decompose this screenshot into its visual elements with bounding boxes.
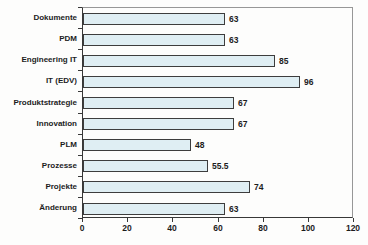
bar bbox=[83, 203, 225, 215]
bar bbox=[83, 97, 234, 109]
bar-chart-figure: DokumentePDMEngineering ITIT (EDV)Produk… bbox=[0, 0, 368, 245]
category-label: Produktstrategie bbox=[0, 98, 77, 107]
category-label: IT (EDV) bbox=[0, 76, 77, 85]
x-axis-tick bbox=[127, 218, 128, 222]
x-axis-tick-label: 100 bbox=[293, 223, 323, 233]
x-axis-tick-label: 20 bbox=[112, 223, 142, 233]
bar bbox=[83, 139, 191, 151]
bar bbox=[83, 181, 250, 193]
x-axis-tick-label: 80 bbox=[248, 223, 278, 233]
category-label: Innovation bbox=[0, 119, 77, 128]
category-axis-labels: DokumentePDMEngineering ITIT (EDV)Produk… bbox=[0, 7, 77, 218]
x-axis-tick-label: 0 bbox=[67, 223, 97, 233]
category-label: PLM bbox=[0, 140, 77, 149]
x-axis-tick bbox=[82, 218, 83, 222]
bar bbox=[83, 76, 300, 88]
value-label: 67 bbox=[238, 118, 247, 130]
x-axis-tick-label: 120 bbox=[338, 223, 368, 233]
bar bbox=[83, 118, 234, 130]
value-label: 63 bbox=[229, 13, 238, 25]
y-axis-tick bbox=[78, 155, 82, 156]
value-label: 63 bbox=[229, 203, 238, 215]
category-label: Prozesse bbox=[0, 161, 77, 170]
value-label: 85 bbox=[279, 55, 288, 67]
plot-area: 6363859667674855.57463 bbox=[82, 7, 353, 218]
y-axis-tick bbox=[78, 7, 82, 8]
y-axis-tick bbox=[78, 70, 82, 71]
x-axis-tick bbox=[172, 218, 173, 222]
x-axis-tick bbox=[353, 218, 354, 222]
value-label: 55.5 bbox=[212, 160, 229, 172]
y-axis-tick bbox=[78, 49, 82, 50]
x-axis-tick-label: 60 bbox=[203, 223, 233, 233]
y-axis-tick bbox=[78, 28, 82, 29]
y-axis-tick bbox=[78, 91, 82, 92]
value-label: 96 bbox=[304, 76, 313, 88]
x-axis-tick bbox=[308, 218, 309, 222]
value-label: 74 bbox=[254, 181, 263, 193]
category-label: Änderung bbox=[0, 203, 77, 212]
bar bbox=[83, 55, 275, 67]
category-label: Projekte bbox=[0, 182, 77, 191]
y-axis-tick bbox=[78, 176, 82, 177]
bar bbox=[83, 13, 225, 25]
value-label: 48 bbox=[195, 139, 204, 151]
bar bbox=[83, 34, 225, 46]
y-axis-tick bbox=[78, 113, 82, 114]
x-axis-tick bbox=[218, 218, 219, 222]
y-axis-tick bbox=[78, 134, 82, 135]
x-axis-tick bbox=[263, 218, 264, 222]
bar bbox=[83, 160, 208, 172]
category-label: Dokumente bbox=[0, 13, 77, 22]
value-label: 63 bbox=[229, 34, 238, 46]
y-axis-tick bbox=[78, 197, 82, 198]
x-axis-tick-label: 40 bbox=[157, 223, 187, 233]
category-label: PDM bbox=[0, 34, 77, 43]
category-label: Engineering IT bbox=[0, 55, 77, 64]
value-label: 67 bbox=[238, 97, 247, 109]
